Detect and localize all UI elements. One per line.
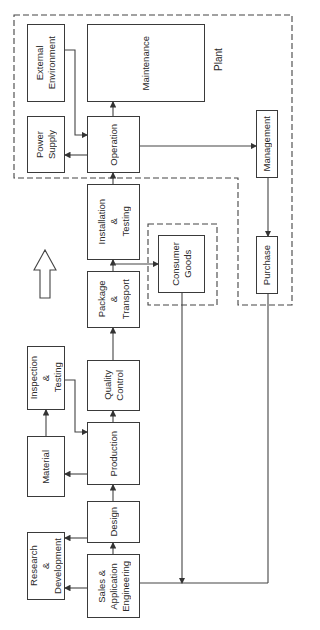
material-box: Material: [27, 436, 65, 497]
power-supply-box: Power Supply: [27, 116, 65, 173]
hollow-up-arrow-icon: [34, 250, 56, 298]
consumer-goods-box: Consumer Goods: [158, 235, 205, 293]
operation-box: Operation: [87, 116, 140, 173]
research-development-box: Research & Development: [27, 532, 65, 600]
inspection-testing-box: Inspection & Testing: [27, 346, 65, 410]
design-box: Design: [87, 501, 140, 543]
package-transport-box: Package & Transport: [87, 271, 140, 328]
management-box: Management: [256, 110, 278, 178]
plant-label: Plant: [213, 40, 225, 80]
sales-engineering-box: Sales & Application Engineering: [87, 554, 140, 618]
installation-testing-box: Installation & Testing: [87, 184, 140, 260]
maintenance-box: Maintenance: [87, 24, 205, 102]
external-environment-box: External Environment: [27, 24, 65, 102]
production-box: Production: [87, 422, 140, 485]
purchase-box: Purchase: [256, 236, 278, 294]
quality-control-box: Quality Control: [87, 360, 140, 411]
